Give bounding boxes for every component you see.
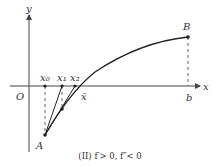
point-A xyxy=(43,133,47,137)
label-x0: x₀ xyxy=(40,72,50,83)
point-on-curve xyxy=(60,107,64,111)
x-axis-label: x xyxy=(203,81,209,92)
line-A-x2 xyxy=(45,86,75,135)
label-xbar: x̄ xyxy=(81,91,87,102)
newton-method-diagram: y x O x₀ x₁ x₂ x̄ b A B xyxy=(0,0,220,167)
point-x2 xyxy=(73,84,76,87)
label-B: B xyxy=(182,21,190,32)
figure-caption: (II) f′> 0, f″< 0 xyxy=(0,151,220,161)
label-x1: x₁ xyxy=(57,72,67,83)
point-x0 xyxy=(43,84,46,87)
label-A: A xyxy=(35,140,43,151)
y-axis-label: y xyxy=(25,3,32,14)
point-B xyxy=(186,35,190,39)
label-x2: x₂ xyxy=(70,72,80,83)
point-x1 xyxy=(60,84,63,87)
label-b: b xyxy=(186,92,192,103)
origin-label: O xyxy=(16,91,24,102)
